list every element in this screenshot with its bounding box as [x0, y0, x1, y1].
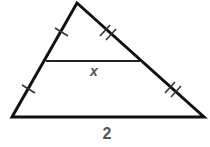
base-label: 2: [103, 125, 112, 142]
midsegment-label: x: [89, 63, 99, 79]
triangle-diagram: x 2: [0, 0, 210, 147]
